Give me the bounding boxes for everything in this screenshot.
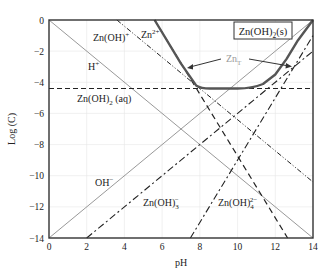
svg-text:4: 4 xyxy=(122,242,127,252)
svg-text:8: 8 xyxy=(198,242,203,252)
svg-text:6: 6 xyxy=(160,242,165,252)
y-axis-ticks: 0 −2 −4 −6 −8 −10 −12 −14 xyxy=(29,16,44,244)
svg-text:12: 12 xyxy=(271,242,281,252)
svg-text:−6: −6 xyxy=(34,109,44,119)
svg-text:10: 10 xyxy=(233,242,243,252)
svg-text:2: 2 xyxy=(84,242,89,252)
svg-text:0: 0 xyxy=(39,16,44,26)
svg-text:−10: −10 xyxy=(29,171,44,181)
znoh2-aq-label: Zn(OH)2 (aq) xyxy=(77,93,131,107)
zn2-plus-label: Zn2+ xyxy=(141,28,160,40)
y-axis-label: Log (C) xyxy=(6,113,18,145)
zn-total-label: ZnT xyxy=(187,53,292,70)
svg-text:−8: −8 xyxy=(34,140,44,150)
znoh-plus-label: Zn(OH)+ xyxy=(93,31,129,44)
zn-oh2-solid-box: Zn(OH)2(s) xyxy=(234,22,292,40)
oh-minus-label: OH− xyxy=(95,176,113,188)
znoh3-minus-label: Zn(OH)3− xyxy=(143,196,179,211)
svg-text:14: 14 xyxy=(308,242,318,252)
svg-text:−4: −4 xyxy=(34,78,44,88)
svg-text:−12: −12 xyxy=(29,202,44,212)
x-axis-ticks: 0 2 4 6 8 10 12 14 xyxy=(47,242,318,252)
zinc-solubility-chart: Zn(OH)2(s) ZnT Zn2+ Zn(OH)+ H+ Zn(OH)2 (… xyxy=(0,0,331,278)
h-plus-label: H+ xyxy=(88,60,99,72)
x-axis-label: pH xyxy=(175,257,187,268)
svg-text:−2: −2 xyxy=(34,47,44,57)
svg-text:0: 0 xyxy=(47,242,52,252)
svg-text:ZnT: ZnT xyxy=(226,53,242,67)
svg-text:−14: −14 xyxy=(29,234,44,244)
